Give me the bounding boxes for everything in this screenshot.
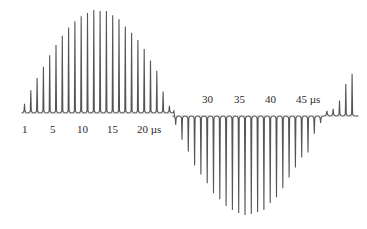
tick-label-45us: 45 µs (296, 93, 320, 105)
pulse-train-chart: 1 5 10 15 20 µs 30 35 40 45 µs (0, 0, 367, 229)
tick-label-35: 35 (234, 93, 246, 105)
tick-label-10: 10 (77, 123, 89, 135)
pulse-trace (21, 10, 358, 215)
tick-label-1: 1 (22, 123, 28, 135)
pulse-waveform (21, 10, 358, 215)
time-axis-labels-lower: 30 35 40 45 µs (202, 93, 320, 105)
tick-label-5: 5 (50, 123, 56, 135)
tick-label-20us: 20 µs (137, 123, 161, 135)
tick-label-15: 15 (107, 123, 119, 135)
tick-label-30: 30 (202, 93, 214, 105)
tick-label-40: 40 (265, 93, 277, 105)
time-axis-labels-upper: 1 5 10 15 20 µs (22, 123, 161, 135)
